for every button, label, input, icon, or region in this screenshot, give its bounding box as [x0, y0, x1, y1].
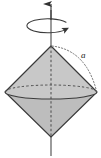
rotation-indicator-group: [27, 19, 66, 33]
bipyramid-diagram-svg: [0, 0, 101, 158]
rotation-arrow-ellipse: [27, 19, 66, 33]
figure-canvas: a: [0, 0, 101, 158]
radius-label-a: a: [81, 51, 86, 60]
